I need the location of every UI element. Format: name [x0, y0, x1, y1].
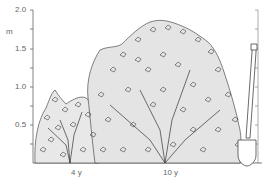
shrub-illustration — [0, 0, 269, 184]
shrub-10-years — [88, 20, 242, 163]
y-axis — [30, 10, 33, 163]
spade-icon — [238, 44, 257, 166]
